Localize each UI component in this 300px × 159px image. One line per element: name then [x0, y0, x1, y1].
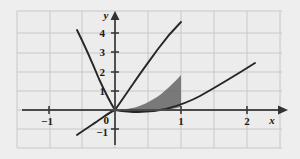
x-tick-label-neg1: −1: [41, 115, 53, 127]
y-tick-label-neg1: −1: [96, 126, 108, 138]
y-tick-label-2: 2: [100, 66, 106, 78]
plot-area-background: [17, 11, 282, 148]
x-tick-label-1: 1: [178, 115, 184, 127]
math-figure: 4 3 2 1 0 −1 −1 1 2 y x: [0, 0, 300, 159]
x-tick-label-2: 2: [244, 115, 250, 127]
x-axis-label: x: [268, 114, 275, 126]
y-tick-label-4: 4: [100, 27, 106, 39]
y-tick-label-3: 3: [100, 46, 106, 58]
graph-canvas: 4 3 2 1 0 −1 −1 1 2 y x: [0, 0, 300, 159]
y-axis-label: y: [102, 9, 109, 21]
y-tick-label-1: 1: [100, 85, 106, 97]
y-tick-label-0: 0: [104, 114, 110, 126]
